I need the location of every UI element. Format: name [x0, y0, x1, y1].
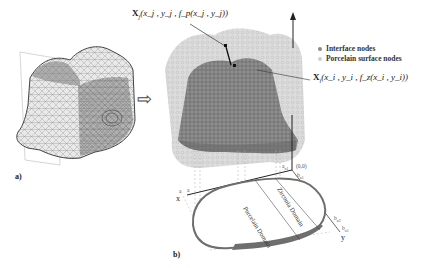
- interface-node-marker-icon: [318, 47, 322, 51]
- a-left-label: a: [179, 188, 181, 194]
- origin-label: (0,0): [296, 163, 307, 169]
- point-cloud-b: [165, 29, 305, 168]
- a-n1-label: an1: [282, 163, 288, 171]
- legend-item-interface: Interface nodes: [318, 44, 402, 53]
- legend-item-porcelain: Porcelain surface nodes: [318, 54, 402, 63]
- figure-canvas: [0, 0, 425, 268]
- a-left2-label: a: [187, 187, 189, 193]
- y-axis-label: y: [341, 233, 345, 242]
- right-arrow-icon: ⇨: [137, 90, 152, 108]
- porcelain-node-marker-icon: [318, 57, 322, 61]
- legend: Interface nodes Porcelain surface nodes: [318, 44, 402, 63]
- x-axis-label: x: [176, 194, 180, 203]
- b-n1-label: bn1: [342, 225, 349, 233]
- panel-b-label: b): [173, 250, 180, 259]
- b-n1-top-label: bn1: [297, 172, 304, 180]
- panel-a-label: a): [15, 172, 22, 181]
- porcelain-point-equation: Xj(x_j , y_j , f_p(x_j , y_j)): [132, 8, 228, 20]
- interface-point-equation: Xi(x_i , y_i , f_z(x_i , y_i)): [313, 72, 408, 84]
- tooth-mesh-a: [17, 47, 135, 165]
- b-n2-label: bn2: [334, 215, 341, 223]
